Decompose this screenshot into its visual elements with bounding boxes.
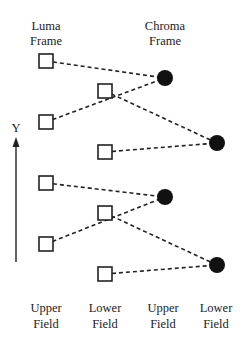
connector-line xyxy=(105,213,217,265)
luma-sample-upper-field xyxy=(39,54,53,68)
luma-header-line2: Frame xyxy=(30,34,62,48)
chroma-sample-upper-field xyxy=(157,189,173,205)
footer-lower-field-1-line1: Lower xyxy=(89,301,122,315)
luma-sample-lower-field xyxy=(98,206,112,220)
connector-line xyxy=(105,265,217,274)
connector-line xyxy=(105,91,217,143)
luma-chroma-sampling-diagram: Luma Frame Chroma Frame Y Upper xyxy=(0,0,245,350)
luma-sample-upper-field xyxy=(39,176,53,190)
footer-upper-field-1-line1: Upper xyxy=(30,301,62,315)
footer-upper-field-2-line1: Upper xyxy=(147,301,179,315)
connector-line xyxy=(46,183,165,197)
luma-sample-lower-field xyxy=(98,267,112,281)
luma-sample-upper-field xyxy=(39,115,53,129)
luma-sample-lower-field xyxy=(98,84,112,98)
luma-header-line1: Luma xyxy=(31,19,61,33)
chroma-sample-lower-field xyxy=(209,135,225,151)
y-axis-label: Y xyxy=(11,121,20,135)
luma-sample-lower-field xyxy=(98,145,112,159)
footer-lower-field-2-line2: Field xyxy=(203,317,229,331)
connector-lines xyxy=(46,61,217,274)
luma-sample-upper-field xyxy=(39,237,53,251)
footer-upper-field-1-line2: Field xyxy=(33,317,59,331)
y-axis: Y xyxy=(11,121,20,262)
chroma-header-line1: Chroma xyxy=(145,19,186,33)
chroma-header-line2: Frame xyxy=(149,34,181,48)
connector-line xyxy=(105,143,217,152)
footer-lower-field-1-line2: Field xyxy=(92,317,118,331)
luma-samples xyxy=(39,54,112,281)
connector-line xyxy=(46,61,165,78)
footer-lower-field-2-line1: Lower xyxy=(200,301,233,315)
chroma-samples xyxy=(157,70,225,273)
chroma-sample-lower-field xyxy=(209,257,225,273)
chroma-sample-upper-field xyxy=(157,70,173,86)
arrow-up-icon xyxy=(13,137,20,147)
footer-upper-field-2-line2: Field xyxy=(150,317,176,331)
